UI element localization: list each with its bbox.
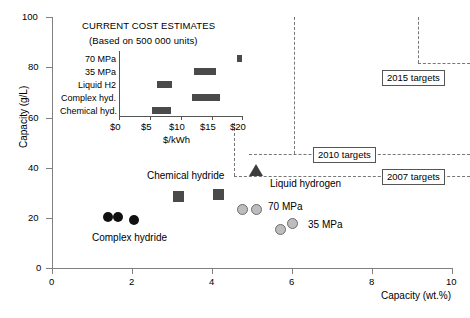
x-tick-2 <box>132 268 133 274</box>
target-label-2007: 2007 targets <box>382 169 445 185</box>
x-tick-label-0: 0 <box>49 276 54 287</box>
data-point-35mpa-1 <box>275 224 286 235</box>
inset-x-tick-0 <box>119 116 120 120</box>
x-axis-title: Capacity (wt.%) <box>381 290 451 301</box>
y-tick-80 <box>46 67 52 68</box>
inset-x-axis-title: $/kWh <box>163 134 190 145</box>
annotation-liquid-hydrogen: Liquid hydrogen <box>270 178 341 189</box>
annotation-70mpa: 70 MPa <box>268 201 302 212</box>
x-tick-4 <box>212 268 213 274</box>
data-point-liquid-hydrogen <box>249 164 263 176</box>
y-tick-label-20: 20 <box>28 212 39 223</box>
inset-category-35mpa: 35 MPa <box>60 67 116 77</box>
target-2015-vline <box>418 17 419 63</box>
y-tick-label-100: 100 <box>22 11 38 22</box>
inset-category-complex-hyd: Complex hyd. <box>60 93 116 103</box>
x-tick-label-6: 6 <box>289 276 294 287</box>
y-tick-100 <box>46 17 52 18</box>
y-tick-label-0: 0 <box>36 262 41 273</box>
data-point-chemical-hydride-2 <box>213 189 224 200</box>
x-tick-label-8: 8 <box>369 276 374 287</box>
data-point-70mpa-2 <box>251 204 262 215</box>
inset-x-tick-label-20: $20 <box>230 121 246 132</box>
x-tick-0 <box>52 268 53 274</box>
target-label-2015: 2015 targets <box>382 70 445 86</box>
annotation-complex-hydride: Complex hydride <box>92 232 167 243</box>
annotation-35mpa: 35 MPa <box>308 219 342 230</box>
inset-bar-complex-hyd <box>192 94 220 101</box>
y-tick-label-60: 60 <box>28 112 39 123</box>
inset-x-tick-20 <box>242 116 243 120</box>
annotation-chemical-hydride: Chemical hydride <box>147 170 224 181</box>
inset-subtitle: (Based on 500 000 units) <box>89 35 198 46</box>
x-tick-label-10: 10 <box>446 276 457 287</box>
target-2015-hline <box>418 63 470 64</box>
inset-bar-liquid-h2 <box>157 81 172 88</box>
inset-title: CURRENT COST ESTIMATES <box>82 20 215 31</box>
data-point-complex-hydride-1 <box>103 212 113 222</box>
y-axis-line <box>52 17 53 269</box>
y-tick-20 <box>46 218 52 219</box>
inset-bar-chemical-hyd <box>152 107 171 114</box>
inset-x-tick-10 <box>181 116 182 120</box>
inset-x-tick-5 <box>150 116 151 120</box>
inset-x-tick-15 <box>212 116 213 120</box>
y-tick-label-40: 40 <box>28 162 39 173</box>
inset-bar-35mpa <box>194 68 216 75</box>
x-tick-6 <box>292 268 293 274</box>
target-2010-vline <box>294 17 295 154</box>
x-tick-label-4: 4 <box>209 276 214 287</box>
inset-y-axis-line <box>119 51 120 117</box>
x-tick-8 <box>372 268 373 274</box>
data-point-complex-hydride-2 <box>113 212 123 222</box>
data-point-70mpa-1 <box>237 204 248 215</box>
target-label-2010: 2010 targets <box>313 147 376 163</box>
inset-x-tick-label-0: $0 <box>110 121 121 132</box>
y-tick-60 <box>46 118 52 119</box>
data-point-chemical-hydride-1 <box>173 191 184 202</box>
inset-x-tick-label-5: $5 <box>141 121 152 132</box>
x-tick-label-2: 2 <box>129 276 134 287</box>
inset-cost-chart: CURRENT COST ESTIMATES (Based on 500 000… <box>60 18 245 136</box>
x-tick-10 <box>452 268 453 274</box>
inset-category-chemical-hyd: Chemical hyd. <box>60 106 116 116</box>
y-tick-label-80: 80 <box>28 61 39 72</box>
data-point-complex-hydride-3 <box>129 215 139 225</box>
x-axis-line <box>52 268 453 269</box>
inset-category-70mpa: 70 MPa <box>60 54 116 64</box>
y-axis-title: Capacity (g/L) <box>18 86 29 148</box>
inset-x-tick-label-15: $15 <box>200 121 216 132</box>
data-point-35mpa-2 <box>287 218 298 229</box>
inset-bar-70mpa <box>237 55 242 62</box>
inset-x-tick-label-10: $10 <box>169 121 185 132</box>
chart-canvas: 100 80 60 40 20 0 Capacity (g/L) 0 2 4 6… <box>0 0 470 318</box>
inset-category-liquid-h2: Liquid H2 <box>60 80 116 90</box>
y-tick-40 <box>46 168 52 169</box>
